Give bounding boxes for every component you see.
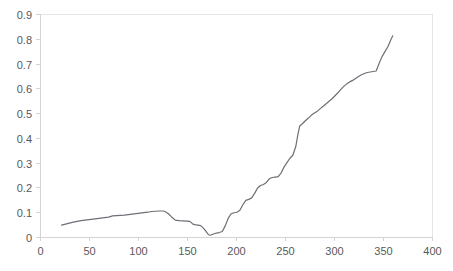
y-tick-label: 0 bbox=[26, 232, 32, 244]
y-tick-label: 0.2 bbox=[17, 182, 32, 194]
y-tick-label: 0.1 bbox=[17, 207, 32, 219]
y-tick-label: 0.6 bbox=[17, 83, 32, 95]
x-tick-label: 350 bbox=[374, 245, 392, 257]
y-tick-label: 0.4 bbox=[17, 133, 32, 145]
x-tick-label: 300 bbox=[325, 245, 343, 257]
x-tick-label: 400 bbox=[423, 245, 441, 257]
x-tick-label: 200 bbox=[227, 245, 245, 257]
y-tick-label: 0.3 bbox=[17, 158, 32, 170]
chart-background bbox=[0, 0, 453, 271]
y-tick-label: 0.8 bbox=[17, 34, 32, 46]
x-tick-label: 100 bbox=[129, 245, 147, 257]
y-tick-label: 0.9 bbox=[17, 9, 32, 21]
y-tick-label: 0.7 bbox=[17, 59, 32, 71]
x-tick-label: 150 bbox=[178, 245, 196, 257]
line-chart: 00.10.20.30.40.50.60.70.80.9 05010015020… bbox=[0, 0, 453, 271]
x-tick-label: 0 bbox=[37, 245, 43, 257]
y-tick-label: 0.5 bbox=[17, 108, 32, 120]
chart-container: 00.10.20.30.40.50.60.70.80.9 05010015020… bbox=[0, 0, 453, 271]
x-tick-label: 50 bbox=[83, 245, 95, 257]
x-tick-label: 250 bbox=[276, 245, 294, 257]
